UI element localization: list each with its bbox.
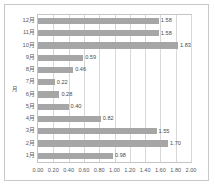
y-axis-tick-labels: 12月11月10月9月8月7月6月5月4月3月2月1月 [10,14,35,163]
bar-row: 0.46 [38,64,191,76]
x-tick-label: 0.20 [48,166,59,174]
y-tick-label: 1月 [11,151,35,159]
bar [38,42,178,48]
bar-row: 1.58 [38,27,191,39]
bar-row: 0.28 [38,89,191,101]
y-tick-label: 2月 [11,139,35,147]
x-tick-label: 1.00 [109,166,120,174]
bar-row: 0.40 [38,101,191,113]
bar-value-label: 0.98 [115,151,126,159]
gridline [191,15,192,162]
bar-chart-figure: 月 12月11月10月9月8月7月6月5月4月3月2月1月 1.581.581.… [0,0,215,194]
bar [38,18,159,24]
y-tick-label: 10月 [11,41,35,49]
y-tick-label: 4月 [11,114,35,122]
bar-value-label: 1.58 [161,16,172,24]
bar-row: 0.82 [38,113,191,125]
bar [38,140,168,146]
bar-row: 0.22 [38,76,191,88]
bar [38,91,59,97]
bar-row: 0.59 [38,52,191,64]
x-tick-label: 0.00 [33,166,44,174]
bar-row: 1.83 [38,40,191,52]
y-tick-label: 5月 [11,102,35,110]
y-tick-label: 11月 [11,28,35,36]
bar-row: 1.70 [38,138,191,150]
bar [38,128,157,134]
bar-row: 1.58 [38,15,191,27]
y-tick-label: 3月 [11,126,35,134]
x-tick-label: 0.60 [78,166,89,174]
clipped-caption [4,186,209,194]
bar [38,30,159,36]
bar-value-label: 1.55 [159,127,170,135]
bar-value-label: 1.83 [180,41,191,49]
bar-value-label: 0.82 [103,114,114,122]
bar-row: 0.98 [38,150,191,162]
y-tick-label: 7月 [11,77,35,85]
bar [38,55,83,61]
bar-value-label: 0.28 [61,90,72,98]
bar-row: 1.55 [38,125,191,137]
bar [38,116,101,122]
x-tick-label: 1.60 [155,166,166,174]
x-tick-label: 1.40 [140,166,151,174]
bar [38,79,55,85]
bar [38,67,73,73]
x-tick-label: 2.00 [186,166,197,174]
x-axis-tick-labels: 0.000.200.400.600.801.001.201.401.601.80… [37,166,192,178]
bar-value-label: 0.59 [85,53,96,61]
plot-area: 1.581.581.830.590.460.220.280.400.821.55… [37,14,192,163]
y-tick-label: 9月 [11,53,35,61]
bar-value-label: 0.46 [75,65,86,73]
y-tick-label: 12月 [11,16,35,24]
chart-area: 月 12月11月10月9月8月7月6月5月4月3月2月1月 1.581.581.… [10,10,202,178]
x-tick-label: 0.40 [63,166,74,174]
y-tick-label: 8月 [11,65,35,73]
bar [38,104,69,110]
bar-series: 1.581.581.830.590.460.220.280.400.821.55… [38,15,191,162]
bar-value-label: 0.40 [71,102,82,110]
bar [38,153,113,159]
bar-value-label: 1.58 [161,29,172,37]
y-tick-label: 6月 [11,90,35,98]
x-tick-label: 1.20 [124,166,135,174]
x-tick-label: 1.80 [170,166,181,174]
bar-value-label: 1.70 [170,139,181,147]
x-tick-label: 0.80 [94,166,105,174]
bar-value-label: 0.22 [57,78,68,86]
